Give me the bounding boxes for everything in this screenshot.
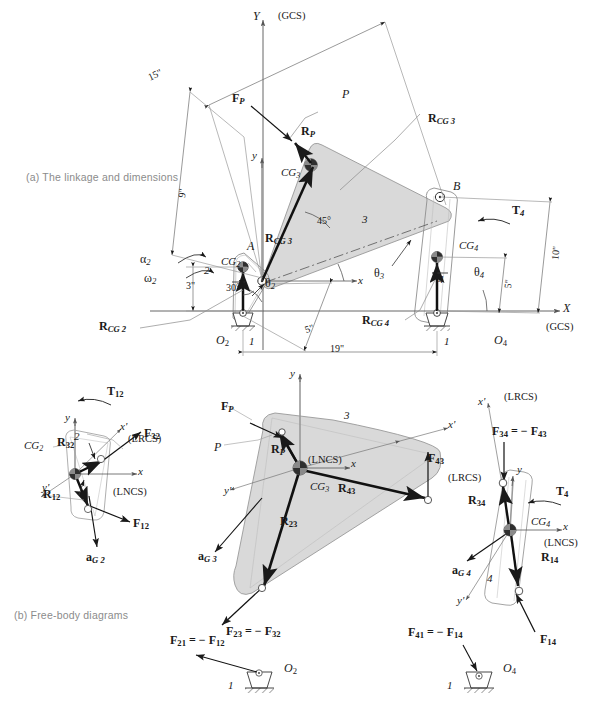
figure-root: (a) The linkage and dimensions (b) Free-… xyxy=(0,0,599,703)
vector-T12-fbd: T12 xyxy=(107,385,124,399)
vector-F12-fbd: F12 xyxy=(133,517,149,531)
lncs-label-link4-fbd: (LNCS) xyxy=(544,538,578,549)
vector-T4-link4-fbd: T4 xyxy=(556,485,568,499)
cg4-label-top: CG4 xyxy=(459,240,478,253)
lrcs-label-link4-fbd: (LRCS) xyxy=(504,392,537,403)
joint-label-O2-top: O2 xyxy=(216,334,229,348)
axis-x-link3-fbd: x xyxy=(351,458,356,469)
angle-30-deg: 30° xyxy=(226,283,240,293)
link-label-1-ground-left: 1 xyxy=(228,680,234,691)
vector-FP-link3-fbd: FP xyxy=(221,400,234,414)
link-label-4-top: 4 xyxy=(438,274,444,285)
cg4-symbol-fbd xyxy=(504,524,516,536)
link-label-1-ground-right: 1 xyxy=(447,680,453,691)
joint-label-O4-top: O4 xyxy=(494,334,507,348)
vector-F34-link4-fbd: F34 = − F43 xyxy=(492,425,547,439)
cg2-label-fbd: CG2 xyxy=(24,440,43,453)
dim-10-inch: 10" xyxy=(550,245,561,260)
vector-R14-link4-fbd: R14 xyxy=(541,551,558,565)
ground-pivot-O4 xyxy=(424,310,450,331)
axis-xprime-link4-fbd: x' xyxy=(478,396,485,407)
vector-aG3-link3-fbd: aG 3 xyxy=(198,550,217,564)
vector-RCG3-top: RCG 3 xyxy=(265,232,292,246)
vector-F43-link3-fbd: F43 xyxy=(428,452,444,466)
cg3-label-fbd: CG3 xyxy=(310,481,329,494)
vector-aG2-fbd: aG 2 xyxy=(86,551,105,565)
angle-theta2-top: θ2 xyxy=(265,277,275,291)
link-label-1-right-top: 1 xyxy=(444,336,450,347)
ground-fbd-right xyxy=(463,645,494,693)
point-label-P-top: P xyxy=(342,88,349,100)
vector-F21-ground-left: F21 = − F12 xyxy=(170,634,225,648)
axis-y-link4-fbd: y xyxy=(517,464,522,475)
axis-yprime-link4-fbd: y' xyxy=(457,595,464,606)
cg4-label-fbd: CG4 xyxy=(531,516,550,529)
vector-R23-link3-fbd: R23 xyxy=(280,515,297,529)
axis-xprime-link2-fbd: x' xyxy=(120,421,127,432)
angle-alpha2-top: α2 xyxy=(140,253,151,267)
vector-RCG4-top: RCG 4 xyxy=(362,314,389,328)
lrcs-label-link3-fbd: (LRCS) xyxy=(448,473,481,484)
axis-yprime-link2-fbd: y' xyxy=(42,482,49,493)
vector-RP-top: RP xyxy=(301,125,315,139)
joint-label-O2-ground-left: O2 xyxy=(284,662,297,676)
vector-F14-link4-fbd: F14 xyxy=(540,633,556,647)
caption-a: (a) The linkage and dimensions xyxy=(26,172,178,183)
axis-xprime-link3-fbd: x' xyxy=(448,419,455,430)
axis-x-link4-fbd: x xyxy=(563,521,568,532)
dim-3-inch: 3" xyxy=(186,281,195,291)
axis-label-y-local-top: y xyxy=(252,150,257,161)
axis-x-link2-fbd: x xyxy=(138,466,143,477)
vector-aG4-link4-fbd: aG 4 xyxy=(452,564,471,578)
vector-F23-link3-fbd: F23 = − F32 xyxy=(226,625,281,639)
lrcs-label-link2-fbd: (LRCS) xyxy=(128,434,161,445)
gcs-label-top: (GCS) xyxy=(278,11,305,22)
fp-force-arrow-top xyxy=(251,106,292,141)
axis-yprime-link3-fbd: y' xyxy=(224,485,231,496)
link-label-1-left-top: 1 xyxy=(249,336,255,347)
vector-R34-link4-fbd: R34 xyxy=(468,494,485,508)
lncs-label-link3-fbd: (LNCS) xyxy=(308,455,342,466)
lncs-label-link2-fbd: (LNCS) xyxy=(113,487,147,498)
cg2-symbol-fbd xyxy=(70,469,81,480)
axis-label-x-local-top: x xyxy=(358,275,363,286)
vector-F41-ground-right: F41 = − F14 xyxy=(408,626,463,640)
link-label-2-top: 2 xyxy=(204,265,210,276)
link-label-2-fbd: 2 xyxy=(74,431,80,442)
vector-RCG3-label-right-top: RCG 3 xyxy=(428,112,455,126)
gcs-label-bottom: (GCS) xyxy=(546,322,573,333)
angle-theta3-top: θ3 xyxy=(374,267,384,281)
vector-T4-top: T4 xyxy=(512,204,524,218)
dim-9-inch: 9" xyxy=(177,188,188,198)
angle-theta4-top: θ4 xyxy=(474,266,484,280)
t4-arrow-top xyxy=(478,219,510,224)
vector-RP-link3-fbd: RP xyxy=(271,443,285,457)
diagram-vector-layer xyxy=(0,0,599,703)
vector-R32-fbd: R32 xyxy=(57,436,74,450)
vector-R43-link3-fbd: R43 xyxy=(338,482,355,496)
theta3-arrow-top xyxy=(392,240,411,266)
rcg2-leader-top xyxy=(140,290,243,328)
dim-19-inch: 19" xyxy=(330,344,344,354)
dim-5-inch-cg4: 5" xyxy=(503,279,514,289)
part-a-drawing xyxy=(140,20,560,356)
cg3-symbol-fbd xyxy=(293,461,307,475)
link3-fbd-drawing xyxy=(215,374,448,625)
point-label-P-link3-fbd: P xyxy=(214,441,221,453)
vector-RCG2-top: RCG 2 xyxy=(99,320,126,334)
link-label-3-fbd: 3 xyxy=(344,410,350,421)
joint-label-B-top: B xyxy=(453,180,460,192)
ground-fbd-left xyxy=(196,655,274,693)
joint-label-O4-ground-right: O4 xyxy=(503,662,516,676)
caption-b: (b) Free-body diagrams xyxy=(14,610,128,621)
joint-label-A-top: A xyxy=(247,240,254,252)
cg2-label-top: CG2 xyxy=(221,256,240,269)
cg3-label-top: CG3 xyxy=(281,167,300,180)
axis-y-link3-fbd: y xyxy=(290,368,295,379)
angle-omega2-top: ω2 xyxy=(144,272,156,286)
axis-y-link2-fbd: y xyxy=(65,412,70,423)
axis-label-X: X xyxy=(563,302,570,314)
link-label-3-top: 3 xyxy=(362,214,368,225)
vector-FP-top: FP xyxy=(232,92,245,106)
axis-label-Y: Y xyxy=(253,10,260,22)
